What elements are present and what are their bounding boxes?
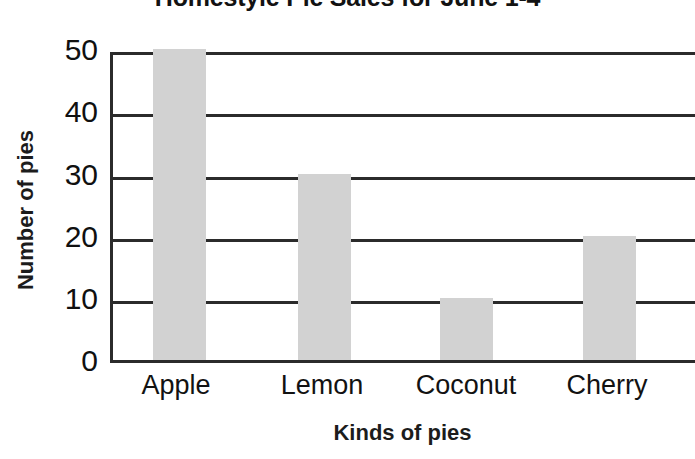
y-tick-label-40: 40 (34, 97, 98, 127)
x-axis-title: Kinds of pies (110, 420, 695, 446)
x-tick-label-coconut: Coconut (396, 372, 536, 399)
x-tick-label-lemon: Lemon (262, 372, 382, 399)
y-tick-label-20: 20 (34, 222, 98, 252)
bar-chart-figure: Homestyle Pie Sales for June 1-4 Number … (0, 0, 695, 459)
y-tick-label-0: 0 (34, 346, 98, 376)
x-tick-label-cherry: Cherry (547, 372, 667, 399)
bar-coconut (440, 298, 493, 360)
plot-area (110, 52, 695, 363)
x-axis-tick-labels: Apple Lemon Coconut Cherry (110, 372, 695, 412)
chart-title: Homestyle Pie Sales for June 1-4 (0, 0, 695, 12)
y-tick-label-30: 30 (34, 160, 98, 190)
bar-cherry (583, 236, 636, 360)
x-tick-label-apple: Apple (116, 372, 236, 399)
bar-apple (153, 49, 206, 360)
y-tick-label-10: 10 (34, 284, 98, 314)
y-tick-label-50: 50 (34, 35, 98, 65)
bar-lemon (298, 174, 351, 360)
x-axis-line (113, 360, 695, 363)
y-axis-tick-labels: 50 40 30 20 10 0 (34, 0, 98, 459)
